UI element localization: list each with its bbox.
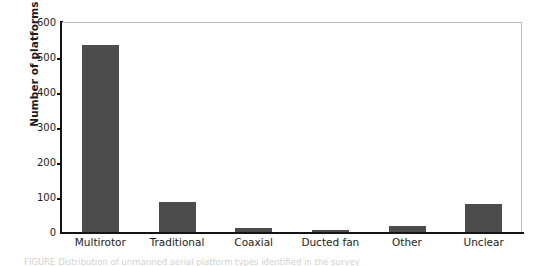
bar (465, 204, 502, 232)
bar (159, 202, 196, 232)
bar (389, 226, 426, 232)
y-tick-label: 200 (22, 157, 56, 168)
x-axis-tick-labels: MultirotorTraditionalCoaxialDucted fanOt… (62, 236, 522, 252)
y-tick-label: 0 (22, 227, 56, 238)
y-tick-label: 500 (22, 52, 56, 63)
x-tick-label: Coaxial (234, 236, 273, 248)
y-axis-tick-labels: 0100200300400500600 (20, 0, 56, 266)
y-tick-mark (57, 198, 62, 200)
figure-caption: FIGURE Distribution of unmanned aerial p… (24, 257, 464, 266)
y-tick-mark (57, 93, 62, 95)
y-tick-mark (57, 163, 62, 165)
x-tick-label: Traditional (150, 236, 205, 248)
y-tick-label: 100 (22, 192, 56, 203)
y-tick-label: 400 (22, 87, 56, 98)
bar (312, 230, 349, 232)
bar-chart-figure: Number of platforms 0100200300400500600 … (0, 0, 536, 266)
plot-area (62, 22, 522, 232)
bar (235, 228, 272, 232)
x-tick-label: Ducted fan (301, 236, 359, 248)
y-tick-label: 300 (22, 122, 56, 133)
y-tick-label: 600 (22, 17, 56, 28)
y-tick-mark (57, 128, 62, 130)
x-tick-label: Unclear (464, 236, 504, 248)
x-tick-label: Other (392, 236, 422, 248)
y-tick-mark (57, 58, 62, 60)
bar (82, 45, 119, 232)
x-tick-label: Multirotor (75, 236, 126, 248)
